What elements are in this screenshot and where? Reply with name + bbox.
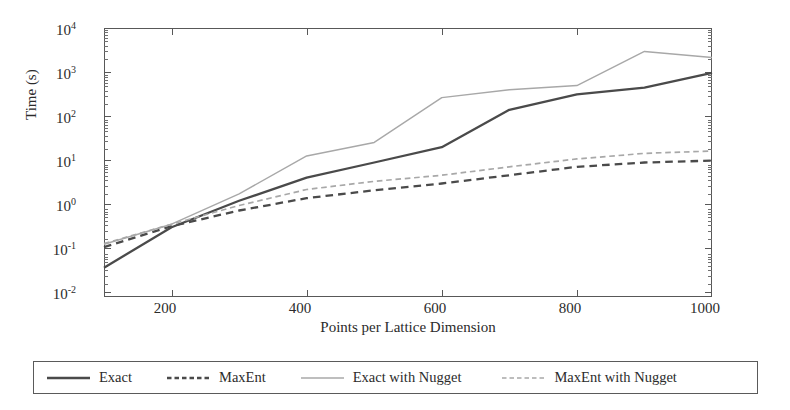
legend: Exact MaxEnt Exact with Nugget MaxEnt wi… [33,361,758,394]
legend-entry-exact[interactable]: Exact [46,370,132,385]
legend-label: Exact [99,370,132,385]
legend-label: Exact with Nugget [353,370,462,385]
x-tick-label: 800 [510,300,630,317]
y-axis-title: Time (s) [23,69,40,120]
y-tick-exponent: 0 [71,196,76,207]
y-tick-label: 104 [56,23,76,38]
series-line [104,161,712,247]
figure-container: Time (s) 104 103 102 101 100 10-1 10-2 2… [0,0,790,410]
legend-label: MaxEnt [219,370,266,385]
legend-entry-exact-with-nugget[interactable]: Exact with Nugget [300,370,462,385]
y-tick-exponent: 2 [71,108,76,119]
plot-area [104,28,712,297]
x-tick-label: 600 [375,300,495,317]
x-tick-label: 1000 [645,300,765,317]
legend-line-swatch [166,372,211,384]
y-tick-label: 10-1 [53,243,76,258]
y-tick-exponent: 4 [71,20,76,31]
series-line [104,73,712,268]
legend-entry-maxent[interactable]: MaxEnt [166,370,266,385]
y-tick-exponent: -2 [68,284,76,295]
x-axis-title: Points per Lattice Dimension [104,319,712,336]
legend-entry-maxent-with-nugget[interactable]: MaxEnt with Nugget [501,370,676,385]
x-tick-label: 400 [240,300,360,317]
legend-line-swatch [300,372,345,384]
series-line [104,51,712,244]
y-tick-label: 103 [56,67,76,82]
y-tick-exponent: 3 [71,64,76,75]
y-tick-label: 102 [56,111,76,126]
y-tick-label: 10-2 [53,287,76,302]
x-tick-label: 200 [105,300,225,317]
y-tick-label: 101 [56,155,76,170]
legend-label: MaxEnt with Nugget [554,370,676,385]
y-tick-label: 100 [56,199,76,214]
legend-line-swatch [46,372,91,384]
legend-line-swatch [501,372,546,384]
y-tick-exponent: 1 [71,152,76,163]
y-tick-exponent: -1 [68,240,76,251]
series-layer [104,28,712,297]
